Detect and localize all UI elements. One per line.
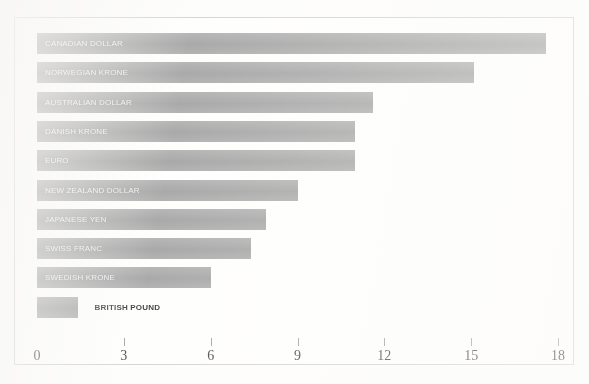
- x-axis-tick-marks: [15, 338, 575, 347]
- bar-category-label: BRITISH POUND: [95, 297, 161, 318]
- bar-category-label: EURO: [45, 150, 69, 171]
- x-axis-tick-label: 3: [120, 348, 127, 364]
- x-axis-tick-label: 6: [207, 348, 214, 364]
- x-axis-tick: [384, 338, 385, 346]
- bar-category-label: DANISH KRONE: [45, 121, 108, 142]
- bar-category-label: JAPANESE YEN: [45, 209, 107, 230]
- bar-category-label: SWISS FRANC: [45, 238, 102, 259]
- x-axis-tick-label: 9: [294, 348, 301, 364]
- bar-category-label: SWEDISH KRONE: [45, 267, 115, 288]
- bar-category-label: NEW ZEALAND DOLLAR: [45, 180, 140, 201]
- x-axis-tick-label: 0: [34, 348, 41, 364]
- x-axis-tick: [471, 338, 472, 346]
- bar-category-label: CANADIAN DOLLAR: [45, 33, 123, 54]
- x-axis-tick: [124, 338, 125, 346]
- x-axis-tick-label: 15: [464, 348, 478, 364]
- bar: [37, 150, 355, 171]
- bar: [37, 297, 78, 318]
- scanned-chart-page: CANADIAN DOLLARNORWEGIAN KRONEAUSTRALIAN…: [0, 0, 589, 384]
- x-axis-tick-label: 18: [551, 348, 565, 364]
- bar-chart-plot-area: CANADIAN DOLLARNORWEGIAN KRONEAUSTRALIAN…: [15, 18, 575, 366]
- x-axis-tick-labels: 0369121518: [15, 348, 575, 366]
- chart-frame: CANADIAN DOLLARNORWEGIAN KRONEAUSTRALIAN…: [14, 17, 574, 365]
- x-axis-tick: [558, 338, 559, 346]
- bar-category-label: AUSTRALIAN DOLLAR: [45, 92, 132, 113]
- x-axis-tick: [298, 338, 299, 346]
- x-axis-tick-label: 12: [377, 348, 391, 364]
- x-axis-tick: [211, 338, 212, 346]
- bar-category-label: NORWEGIAN KRONE: [45, 62, 128, 83]
